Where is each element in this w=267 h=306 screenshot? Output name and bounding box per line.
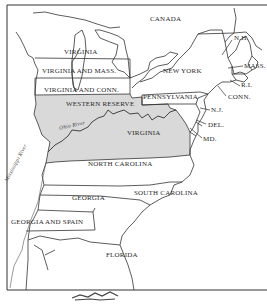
lake-michigan	[72, 30, 86, 90]
label-ri: R.I.	[241, 82, 252, 89]
label-north-carolina: NORTH CAROLINA	[88, 161, 152, 168]
label-del: DEL.	[208, 122, 224, 129]
label-nh: N.H.	[234, 35, 248, 42]
label-georgia: GEORGIA	[72, 195, 105, 202]
label-florida: FLORIDA	[106, 252, 138, 259]
label-conn: CONN.	[228, 94, 251, 101]
label-georgia-spain: GEORGIA AND SPAIN	[11, 219, 83, 226]
label-mass: MASS.	[244, 63, 266, 70]
new-york-outline	[140, 30, 236, 95]
label-nj: N.J.	[211, 107, 223, 114]
label-western-reserve: WESTERN RESERVE	[66, 101, 134, 108]
artist-signature	[72, 292, 118, 300]
label-new-york: NEW YORK	[163, 68, 202, 75]
label-virginia-mass: VIRGINIA AND MASS.	[42, 68, 116, 75]
label-virginia-north: VIRGINIA	[64, 49, 97, 56]
label-virginia-conn: VIRGINIA AND CONN.	[44, 87, 119, 94]
label-pennsylvania: PENNSYLVANIA	[143, 94, 198, 101]
map-canvas	[0, 0, 267, 306]
canada-border	[198, 8, 262, 50]
label-south-carolina: SOUTH CAROLINA	[134, 190, 198, 197]
label-virginia-kentucky: VIRGINIA	[127, 130, 160, 137]
label-canada: CANADA	[150, 16, 181, 23]
label-md: MD.	[203, 136, 217, 143]
mid-atlantic-coast	[190, 94, 208, 155]
